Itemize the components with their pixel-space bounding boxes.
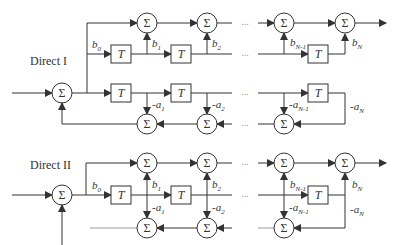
coef-aN: -aN [350,203,364,218]
adder: Σ [335,13,355,33]
svg-text:Σ: Σ [281,16,288,30]
adder: Σ [335,153,355,173]
delay-block: T [308,186,328,204]
delay-block: T [111,186,131,204]
svg-text:Σ: Σ [59,86,66,100]
svg-text:Σ: Σ [342,16,349,30]
coef-aN: -aN [350,100,364,115]
coef-a2: -a2 [212,98,225,113]
adder: Σ [137,13,157,33]
adder: Σ [274,114,294,134]
delay-block: T [171,186,191,204]
svg-text:Σ: Σ [281,156,288,170]
coef-b1: b1 [152,37,161,52]
delay-block: T [111,84,131,102]
coef-aN-1: -aN-1 [289,201,309,216]
ellipsis: ... [241,156,249,167]
delay-block: T [171,45,191,63]
svg-text:Σ: Σ [144,16,151,30]
input-adder: Σ [52,185,72,205]
svg-text:Σ: Σ [281,117,288,131]
coef-b2: b2 [212,37,222,52]
coef-b2: b2 [212,178,222,193]
ellipsis: ... [241,188,249,199]
svg-text:Σ: Σ [204,16,211,30]
adder: Σ [137,218,157,238]
adder: Σ [197,218,217,238]
ellipsis: ... [241,47,249,58]
coef-a1: -a1 [152,98,165,113]
input-adder: Σ [52,83,72,103]
adder: Σ [197,13,217,33]
direct-form-1: Direct I Σ b0 T b1 Σ T [12,13,386,134]
adder: Σ [274,153,294,173]
svg-text:Σ: Σ [144,156,151,170]
delay-block: T [308,45,328,63]
coef-a2: -a2 [212,201,225,216]
direct-form-2: Direct II Σ b0 T b1 -a1 Σ T b2 [12,153,386,245]
svg-text:Σ: Σ [144,221,151,235]
svg-text:Σ: Σ [144,117,151,131]
svg-text:Σ: Σ [342,156,349,170]
coef-bN: bN [352,178,363,193]
svg-text:Σ: Σ [281,221,288,235]
delay-block: T [308,84,328,102]
coef-bN-1: bN-1 [290,36,306,51]
coef-b1: b1 [152,178,161,193]
ellipsis: ... [241,16,249,27]
adder: Σ [274,13,294,33]
coef-b0: b0 [92,179,102,194]
coef-a1: -a1 [152,201,165,216]
adder: Σ [197,153,217,173]
ellipsis: ... [241,86,249,97]
coef-b0: b0 [92,38,102,53]
coef-bN: bN [352,36,363,51]
ellipsis: ... [241,117,249,128]
section-title: Direct I [30,54,67,68]
adder: Σ [137,114,157,134]
svg-text:Σ: Σ [204,221,211,235]
adder: Σ [197,114,217,134]
coef-bN-1: bN-1 [290,178,306,193]
filter-block-diagram: Direct I Σ b0 T b1 Σ T [0,0,396,245]
adder: Σ [137,153,157,173]
coef-aN-1: -aN-1 [289,98,309,113]
adder: Σ [274,218,294,238]
svg-text:Σ: Σ [204,117,211,131]
delay-block: T [171,84,191,102]
svg-text:Σ: Σ [59,188,66,202]
svg-text:Σ: Σ [204,156,211,170]
delay-block: T [111,45,131,63]
section-title: Direct II [30,158,71,172]
